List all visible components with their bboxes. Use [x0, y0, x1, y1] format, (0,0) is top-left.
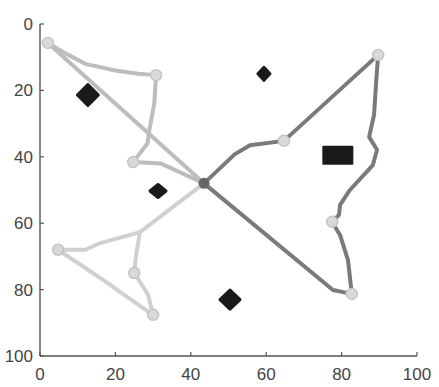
- x-tick-label: 100: [403, 365, 431, 384]
- y-tick-label: 40: [14, 148, 33, 167]
- path-path-lower-right: [204, 183, 352, 294]
- y-tick-label: 100: [5, 347, 33, 366]
- waypoint-node: [278, 135, 289, 146]
- waypoint-node: [346, 288, 357, 299]
- y-tick-label: 0: [24, 15, 33, 34]
- x-tick-label: 20: [106, 365, 125, 384]
- waypoint-node: [53, 244, 64, 255]
- y-tick-label: 20: [14, 81, 33, 100]
- y-tick-label: 60: [14, 214, 33, 233]
- obstacle-diamond: [258, 67, 270, 80]
- path-path-upper-left: [48, 43, 204, 183]
- obstacle-rect: [322, 146, 353, 165]
- x-tick-label: 0: [35, 365, 44, 384]
- waypoint-node: [129, 268, 140, 279]
- path-path-lower-left: [58, 183, 204, 314]
- waypoint-node: [148, 309, 159, 320]
- waypoint-node: [128, 157, 139, 168]
- obstacle-diamond: [220, 290, 240, 309]
- y-tick-labels: 020406080100: [5, 15, 33, 366]
- series-layer: [42, 37, 383, 320]
- center-node: [198, 178, 209, 189]
- x-tick-labels: 020406080100: [35, 365, 431, 384]
- path-path-lower-right: [332, 222, 352, 294]
- x-tick-label: 40: [181, 365, 200, 384]
- obstacle-diamond: [150, 184, 166, 197]
- x-tick-label: 80: [332, 365, 351, 384]
- x-tick-label: 60: [257, 365, 276, 384]
- y-tick-label: 80: [14, 281, 33, 300]
- waypoint-node: [327, 216, 338, 227]
- waypoint-node: [373, 49, 384, 60]
- waypoint-node: [42, 37, 53, 48]
- waypoint-node: [151, 70, 162, 81]
- path-path-upper-right: [204, 55, 378, 222]
- path-plot: 020406080100 020406080100: [0, 0, 439, 387]
